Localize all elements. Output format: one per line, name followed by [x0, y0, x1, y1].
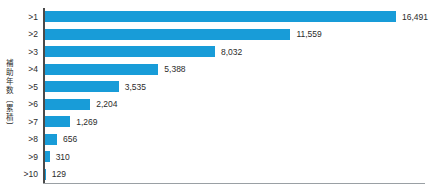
bar-row: >116,491: [0, 8, 433, 26]
category-label: >2: [0, 29, 43, 39]
value-label: 16,491: [402, 12, 428, 22]
bar: [43, 46, 215, 57]
bar-row: >53,535: [0, 78, 433, 96]
category-label: >10: [0, 169, 43, 179]
category-label: >4: [0, 64, 43, 74]
bar: [43, 29, 290, 40]
value-label: 8,032: [221, 47, 242, 57]
value-label: 310: [56, 152, 70, 162]
bar: [43, 99, 90, 110]
bar: [43, 116, 70, 127]
bar-rows: >116,491>211,559>38,032>45,388>53,535>62…: [0, 8, 433, 183]
bar-row: >45,388: [0, 61, 433, 79]
bar-row: >8656: [0, 131, 433, 149]
value-label: 3,535: [125, 82, 146, 92]
bar: [43, 64, 158, 75]
category-label: >5: [0, 82, 43, 92]
value-label: 656: [63, 134, 77, 144]
bar-row: >10129: [0, 166, 433, 184]
category-label: >9: [0, 152, 43, 162]
value-label: 2,204: [96, 99, 117, 109]
x-axis-baseline: [43, 183, 425, 184]
bar-chart: 補助年数〔累積〕 >116,491>211,559>38,032>45,388>…: [0, 0, 433, 196]
bar-row: >9310: [0, 148, 433, 166]
value-label: 129: [52, 169, 66, 179]
category-label: >1: [0, 12, 43, 22]
category-label: >8: [0, 134, 43, 144]
bar-row: >38,032: [0, 43, 433, 61]
y-axis-line: [43, 8, 45, 183]
bar: [43, 11, 396, 22]
bar-row: >211,559: [0, 26, 433, 44]
bar-row: >62,204: [0, 96, 433, 114]
value-label: 5,388: [164, 64, 185, 74]
bar: [43, 134, 57, 145]
bar-row: >71,269: [0, 113, 433, 131]
category-label: >6: [0, 99, 43, 109]
category-label: >3: [0, 47, 43, 57]
value-label: 1,269: [76, 117, 97, 127]
value-label: 11,559: [296, 29, 321, 39]
bar: [43, 81, 119, 92]
category-label: >7: [0, 117, 43, 127]
